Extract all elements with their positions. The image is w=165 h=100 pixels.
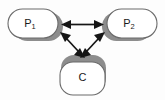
- node-p2-label-main: P: [123, 17, 130, 29]
- node-p2[interactable]: P2: [102, 9, 157, 41]
- node-p2-label-sub: 2: [131, 22, 135, 31]
- diagram-canvas: P1 P2 C: [0, 0, 165, 100]
- node-p1-label-sub: 1: [32, 22, 36, 31]
- node-c[interactable]: C: [60, 55, 106, 95]
- node-p1-label-main: P: [24, 17, 31, 29]
- node-c-label: C: [79, 71, 87, 83]
- edge-p1-p2[interactable]: [61, 20, 104, 29]
- diagram-svg: P1 P2 C: [0, 0, 165, 100]
- edge-p1-c[interactable]: [60, 32, 85, 58]
- edge-p2-c[interactable]: [80, 32, 105, 58]
- node-p1[interactable]: P1: [8, 9, 63, 41]
- node-c-label-main: C: [79, 71, 87, 83]
- edge-p1-c-line: [66, 38, 79, 52]
- edge-p2-c-line: [86, 38, 99, 52]
